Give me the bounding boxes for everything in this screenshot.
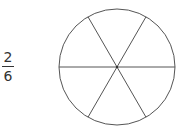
fraction-circle-diagram	[0, 0, 181, 128]
center-point	[116, 66, 118, 68]
